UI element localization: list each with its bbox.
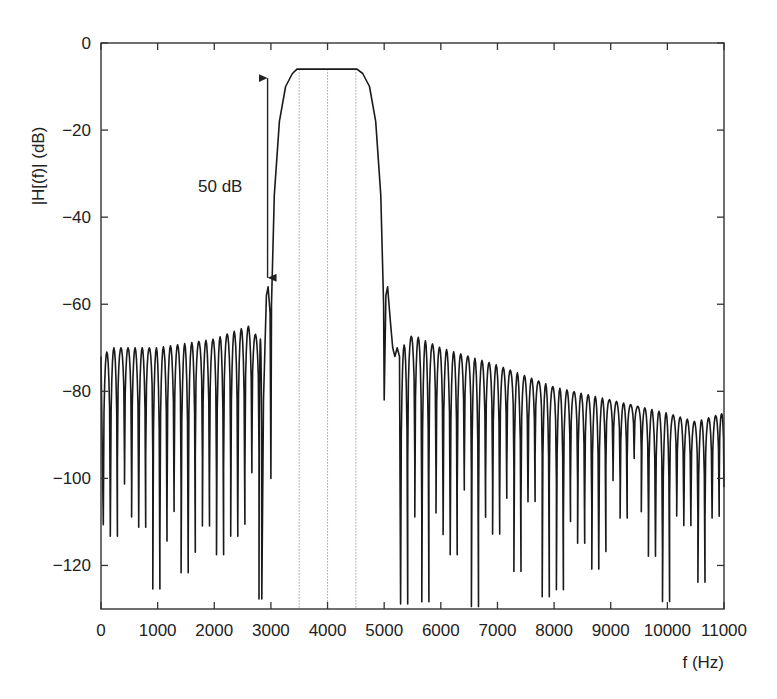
y-tick-label: 0 bbox=[82, 34, 91, 53]
y-tick-label: −80 bbox=[62, 382, 91, 401]
passband-reference-lines bbox=[299, 69, 356, 609]
x-tick-label: 5000 bbox=[365, 621, 403, 640]
x-tick-label: 8000 bbox=[535, 621, 573, 640]
x-tick-label: 2000 bbox=[195, 621, 233, 640]
magnitude-response-curve bbox=[101, 69, 724, 607]
x-tick-label: 7000 bbox=[479, 621, 517, 640]
y-tick-label: −100 bbox=[53, 469, 91, 488]
x-tick-label: 4000 bbox=[309, 621, 347, 640]
attenuation-annotation: 50 dB bbox=[198, 177, 242, 196]
y-tick-label: −60 bbox=[62, 295, 91, 314]
x-tick-label: 10000 bbox=[644, 621, 691, 640]
x-tick-label: 0 bbox=[96, 621, 105, 640]
x-axis-label: f (Hz) bbox=[682, 653, 724, 672]
x-tick-label: 3000 bbox=[252, 621, 290, 640]
y-tick-label: −20 bbox=[62, 121, 91, 140]
x-tick-label: 9000 bbox=[592, 621, 630, 640]
y-tick-label: −120 bbox=[53, 556, 91, 575]
x-tick-label: 1000 bbox=[139, 621, 177, 640]
frequency-response-chart: 0100020003000400050006000700080009000100… bbox=[0, 0, 777, 699]
x-tick-label: 11000 bbox=[701, 621, 747, 640]
x-tick-label: 6000 bbox=[422, 621, 460, 640]
y-axis-label: |H[(f)| (dB) bbox=[29, 127, 48, 206]
y-tick-label: −40 bbox=[62, 208, 91, 227]
